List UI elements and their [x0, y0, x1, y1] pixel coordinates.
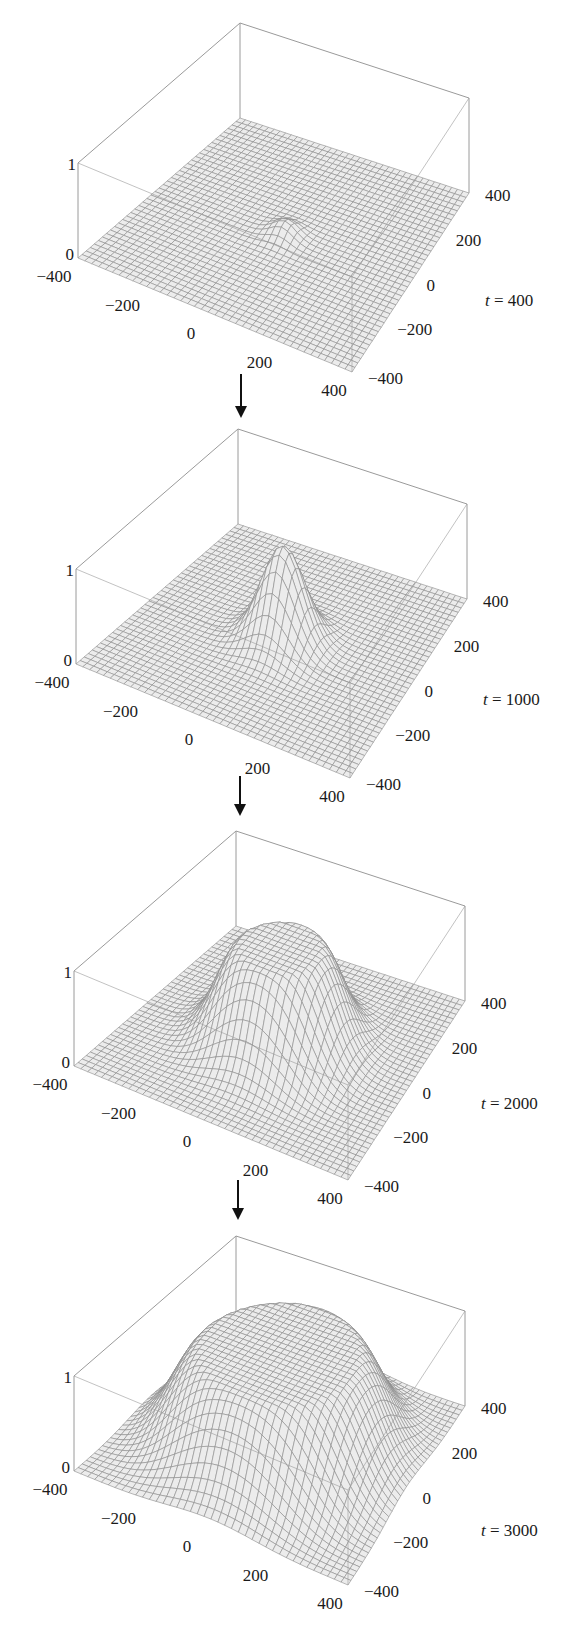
y-tick-label: 200	[454, 637, 480, 656]
z-tick-label: 0	[66, 245, 75, 264]
x-tick-label: −200	[101, 1104, 136, 1123]
x-tick-label: 0	[185, 730, 194, 749]
figure-canvas: −400−20002004004002000−200−40001 −400−20…	[0, 0, 573, 1626]
z-tick-label: 1	[64, 963, 73, 982]
y-tick-label: −400	[368, 369, 403, 388]
x-tick-label: −400	[36, 267, 71, 286]
x-tick-label: −400	[32, 1480, 67, 1499]
x-tick-label: 200	[243, 1566, 269, 1585]
y-tick-label: −200	[393, 1533, 428, 1552]
x-tick-label: −200	[101, 1509, 136, 1528]
x-tick-label: 200	[247, 353, 273, 372]
x-tick-label: 0	[183, 1132, 192, 1151]
surface-plot-t3000: −400−20002004004002000−200−40001	[32, 1236, 506, 1613]
y-tick-label: −400	[364, 1582, 399, 1601]
z-tick-label: 0	[62, 1053, 71, 1072]
x-tick-label: 400	[317, 1594, 343, 1613]
y-tick-label: −200	[397, 320, 432, 339]
y-tick-label: 0	[425, 682, 434, 701]
x-tick-label: 400	[317, 1189, 343, 1208]
y-tick-label: 200	[452, 1444, 478, 1463]
y-tick-label: 0	[423, 1084, 432, 1103]
y-tick-label: 200	[456, 231, 482, 250]
time-label: t = 3000	[481, 1521, 538, 1540]
surface-plot-t400: −400−20002004004002000−200−40001	[36, 23, 510, 400]
down-arrow-icon	[232, 1180, 244, 1220]
x-tick-label: −200	[103, 702, 138, 721]
z-tick-label: 0	[62, 1458, 71, 1477]
y-tick-label: −200	[393, 1128, 428, 1147]
surface-plot-t2000: −400−20002004004002000−200−40001	[32, 831, 506, 1208]
time-label: t = 1000	[483, 690, 540, 709]
z-tick-label: 0	[64, 651, 73, 670]
y-tick-label: −400	[364, 1177, 399, 1196]
z-tick-label: 1	[64, 1368, 73, 1387]
z-tick-label: 1	[66, 561, 75, 580]
surface-plot-t1000: −400−20002004004002000−200−40001	[34, 429, 508, 806]
y-tick-label: −200	[395, 726, 430, 745]
y-tick-label: 400	[483, 592, 509, 611]
x-tick-label: 400	[321, 381, 347, 400]
x-tick-label: 400	[319, 787, 345, 806]
y-tick-label: −400	[366, 775, 401, 794]
x-tick-label: 200	[245, 759, 271, 778]
x-tick-label: 0	[183, 1537, 192, 1556]
y-tick-label: 0	[427, 276, 436, 295]
x-tick-label: −400	[32, 1075, 67, 1094]
x-tick-label: −200	[105, 296, 140, 315]
time-label: t = 400	[485, 291, 533, 310]
y-tick-label: 0	[423, 1489, 432, 1508]
time-label: t = 2000	[481, 1094, 538, 1113]
y-tick-label: 200	[452, 1039, 478, 1058]
y-tick-label: 400	[485, 186, 511, 205]
down-arrow-icon	[235, 374, 247, 418]
y-tick-label: 400	[481, 1399, 507, 1418]
x-tick-label: 0	[187, 324, 196, 343]
y-tick-label: 400	[481, 994, 507, 1013]
x-tick-label: −400	[34, 673, 69, 692]
z-tick-label: 1	[68, 155, 77, 174]
x-tick-label: 200	[243, 1161, 269, 1180]
down-arrow-icon	[234, 776, 246, 816]
